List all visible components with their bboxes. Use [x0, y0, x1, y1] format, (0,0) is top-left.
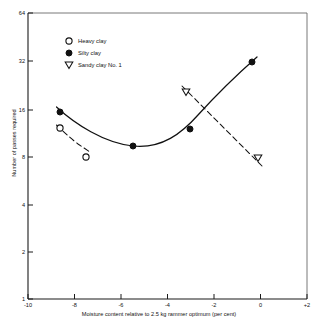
chart-figure: Heavy clay Silty clay Sandy clay No. 1 6… — [0, 0, 318, 329]
data-point-heavy-clay — [57, 125, 63, 131]
x-tick-label-neg2: -2 — [202, 302, 226, 308]
x-tick-label-pos2: +2 — [295, 302, 318, 308]
data-point-silty-clay — [187, 126, 193, 132]
x-tick-label-neg6: -6 — [109, 302, 133, 308]
legend-item-heavy-clay: Heavy clay — [78, 38, 106, 44]
legend-marker-open-circle — [66, 38, 72, 44]
data-point-sandy-clay — [254, 155, 262, 162]
series-sandy-clay-1 — [182, 86, 262, 166]
x-tick-label-neg4: -4 — [156, 302, 180, 308]
y-tick-label-2: 2 — [5, 249, 25, 255]
series-heavy-clay — [57, 125, 91, 160]
data-point-silty-clay — [249, 59, 255, 65]
y-tick-label-64: 64 — [5, 10, 25, 16]
x-axis-title: Moisture content relative to 2.5 kg ramm… — [0, 311, 318, 317]
series-silty-clay — [57, 57, 258, 149]
data-point-silty-clay — [130, 143, 136, 149]
legend-item-sandy-clay-1: Sandy clay No. 1 — [78, 62, 122, 68]
legend-markers — [65, 38, 73, 69]
y-axis-ticks — [28, 13, 33, 299]
chart-canvas — [0, 0, 318, 329]
legend-item-silty-clay: Silty clay — [78, 50, 101, 56]
legend-marker-open-triangle — [65, 62, 73, 69]
x-tick-label-neg10: -10 — [16, 302, 40, 308]
x-tick-label-neg8: -8 — [63, 302, 87, 308]
data-point-heavy-clay — [83, 154, 89, 160]
y-tick-label-32: 32 — [5, 58, 25, 64]
data-point-silty-clay — [57, 109, 63, 115]
x-axis-ticks — [28, 294, 307, 299]
x-tick-label-0: 0 — [249, 302, 273, 308]
legend-marker-filled-circle — [66, 50, 72, 56]
y-axis-title: Number of passes required — [11, 83, 17, 203]
